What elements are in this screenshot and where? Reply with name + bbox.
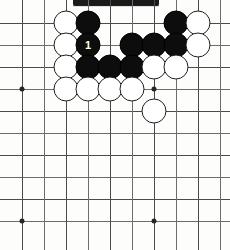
grid-line-horizontal <box>0 177 230 178</box>
grid-line-vertical <box>44 0 45 250</box>
grid-line-horizontal <box>0 221 230 222</box>
grid-line-vertical <box>110 0 111 250</box>
star-point <box>20 87 25 92</box>
grid-line-horizontal <box>0 155 230 156</box>
white-stone[interactable] <box>142 99 167 124</box>
white-stone[interactable] <box>164 55 189 80</box>
grid-line-horizontal <box>0 133 230 134</box>
white-stone[interactable] <box>120 77 145 102</box>
star-point <box>152 87 157 92</box>
grid-line-vertical <box>22 0 23 250</box>
white-stone[interactable] <box>186 33 211 58</box>
star-point <box>152 219 157 224</box>
move-number-label: 1 <box>85 40 91 51</box>
grid-line-horizontal <box>0 111 230 112</box>
go-board-diagram: 1 <box>0 0 230 250</box>
star-point <box>20 219 25 224</box>
grid-line-vertical <box>220 0 221 250</box>
grid-line-horizontal <box>0 199 230 200</box>
